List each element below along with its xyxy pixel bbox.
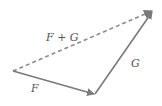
vector-f — [13, 71, 94, 94]
label-g: G — [131, 57, 140, 70]
label-f-plus-g: F + G — [45, 31, 79, 44]
label-f: F — [30, 82, 39, 95]
vector-addition-diagram: F + G G F — [0, 0, 162, 106]
vector-g — [95, 12, 152, 94]
